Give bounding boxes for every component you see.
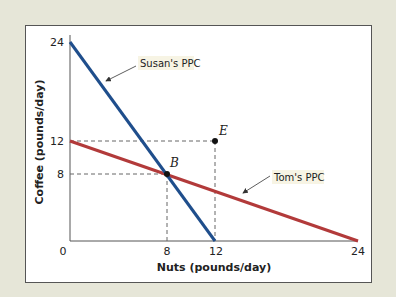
x-axis-label: Nuts (pounds/day) (157, 261, 271, 274)
tick-y-12: 12 (50, 135, 64, 148)
susan-arrow-icon (106, 66, 136, 81)
point-e-marker (212, 138, 218, 144)
point-b-marker (164, 171, 170, 177)
tick-x-8: 8 (164, 245, 171, 258)
point-b-label: B (169, 156, 179, 170)
tom-arrow-icon (243, 176, 270, 193)
ppc-chart: B E 24 12 8 0 8 12 24 Nuts (pounds/day) … (0, 0, 396, 297)
tick-x-0: 0 (60, 245, 67, 258)
tick-y-24: 24 (50, 36, 64, 49)
tick-x-12: 12 (209, 245, 223, 258)
y-axis-label: Coffee (pounds/day) (33, 79, 46, 204)
tick-x-24: 24 (351, 245, 365, 258)
toms-ppc-line (70, 141, 358, 241)
tick-y-8: 8 (57, 168, 64, 181)
tom-ppc-annotation: Tom's PPC (273, 172, 324, 183)
susan-ppc-annotation: Susan's PPC (140, 58, 201, 69)
point-e-label: E (218, 124, 228, 138)
